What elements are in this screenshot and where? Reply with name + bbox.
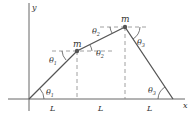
mass-2-label: m [121, 14, 130, 24]
theta2-top-label: θ2 [92, 27, 100, 37]
angle-arc-theta2-bottom [90, 45, 92, 51]
angle-arc-theta1-bottom [40, 89, 44, 99]
theta3-top-label: θ3 [137, 38, 145, 48]
theta2-bottom-label: θ2 [96, 49, 104, 59]
angle-arc-theta3-bottom [158, 87, 165, 99]
mass-1-label: m [73, 39, 82, 49]
rope-masses-diagram: y x m m θ1 θ1 θ2 θ2 θ3 θ3 L L L [0, 0, 196, 117]
theta3-bottom-label: θ3 [148, 86, 156, 96]
theta1-bottom-label: θ1 [46, 88, 54, 98]
mass-1 [75, 49, 79, 53]
segment-2-length-label: L [97, 104, 103, 113]
x-axis-label: x [183, 101, 188, 110]
segment-3-length-label: L [146, 104, 152, 113]
angle-arc-theta1-top [62, 51, 66, 60]
theta1-top-label: θ1 [49, 56, 57, 66]
y-axis-label: y [31, 3, 37, 12]
diagram-canvas: y x m m θ1 θ1 θ2 θ2 θ3 θ3 L L L [0, 0, 196, 117]
segment-1-length-label: L [49, 104, 55, 113]
angle-arc-theta2-top [110, 27, 112, 33]
mass-2 [123, 25, 127, 29]
